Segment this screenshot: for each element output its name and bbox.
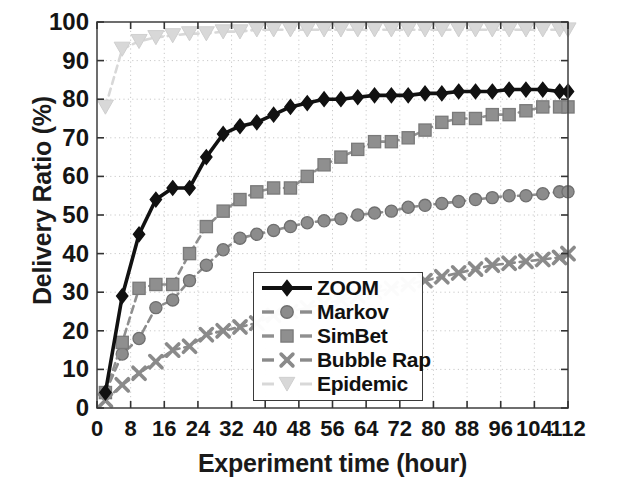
legend-label-bubble-rap: Bubble Rap bbox=[317, 348, 431, 372]
data-point-square bbox=[335, 151, 347, 163]
legend-swatch-epidemic bbox=[260, 373, 314, 395]
data-point-circle bbox=[183, 275, 195, 287]
data-point-square bbox=[436, 116, 448, 128]
data-point-square bbox=[167, 278, 179, 290]
data-point-circle bbox=[200, 259, 212, 271]
data-point-diamond bbox=[386, 88, 397, 102]
x-tick-label: 16 bbox=[152, 416, 176, 442]
data-point-circle bbox=[419, 199, 431, 211]
data-point-diamond bbox=[352, 90, 363, 104]
y-tick-label: 50 bbox=[19, 201, 89, 229]
data-point-diamond bbox=[487, 84, 498, 98]
x-tick-label: 24 bbox=[186, 416, 210, 442]
x-tick-label: 104 bbox=[516, 416, 553, 442]
y-tick-label: 0 bbox=[19, 394, 89, 422]
data-point-circle bbox=[268, 224, 280, 236]
data-point-square bbox=[234, 193, 246, 205]
data-point-circle bbox=[352, 209, 364, 221]
data-point-triangle-down bbox=[279, 377, 295, 391]
data-point-circle bbox=[234, 232, 246, 244]
data-point-circle bbox=[402, 201, 414, 213]
y-tick-label: 90 bbox=[19, 47, 89, 75]
data-point-diamond bbox=[234, 119, 245, 133]
data-point-x bbox=[150, 356, 162, 368]
data-point-square bbox=[503, 109, 515, 121]
data-point-circle bbox=[150, 302, 162, 314]
legend-swatch-graphic bbox=[260, 301, 314, 323]
data-point-diamond bbox=[520, 82, 531, 96]
data-point-square bbox=[453, 112, 465, 124]
data-point-diamond bbox=[318, 92, 329, 106]
data-point-circle bbox=[284, 221, 296, 233]
x-tick-label: 96 bbox=[488, 416, 512, 442]
data-point-circle bbox=[486, 192, 498, 204]
data-point-x bbox=[281, 354, 293, 366]
data-point-square bbox=[318, 159, 330, 171]
data-point-diamond bbox=[403, 88, 414, 102]
y-tick-label: 60 bbox=[19, 162, 89, 190]
series-line bbox=[105, 30, 568, 107]
legend-label-simbet: SimBet bbox=[317, 324, 388, 348]
y-tick-label: 70 bbox=[19, 124, 89, 152]
data-point-square bbox=[385, 136, 397, 148]
data-point-diamond bbox=[436, 86, 447, 100]
data-point-triangle-down bbox=[131, 34, 147, 48]
legend-item-markov: Markov bbox=[254, 300, 422, 324]
data-point-circle bbox=[469, 193, 481, 205]
data-point-diamond bbox=[281, 281, 293, 296]
legend-item-simbet: SimBet bbox=[254, 324, 422, 348]
data-point-circle bbox=[385, 205, 397, 217]
data-point-circle bbox=[436, 197, 448, 209]
legend-swatch-zoom bbox=[260, 277, 314, 299]
data-point-square bbox=[520, 105, 532, 117]
data-point-diamond bbox=[117, 289, 128, 303]
data-point-square bbox=[352, 143, 364, 155]
data-point-square bbox=[537, 101, 549, 113]
legend-label-epidemic: Epidemic bbox=[317, 372, 408, 396]
data-point-diamond bbox=[335, 92, 346, 106]
data-point-square bbox=[116, 336, 128, 348]
data-point-diamond bbox=[285, 100, 296, 114]
data-point-square bbox=[251, 186, 263, 198]
delivery-ratio-chart: Delivery Ratio (%) Experiment time (hour… bbox=[0, 0, 617, 490]
legend-label-markov: Markov bbox=[317, 300, 389, 324]
data-point-circle bbox=[217, 244, 229, 256]
data-point-circle bbox=[133, 332, 145, 344]
x-tick-label: 112 bbox=[550, 416, 586, 442]
x-tick-label: 32 bbox=[219, 416, 243, 442]
legend-swatch-graphic bbox=[260, 373, 314, 395]
x-tick-label: 40 bbox=[253, 416, 277, 442]
y-tick-label: 20 bbox=[19, 317, 89, 345]
x-tick-label: 8 bbox=[125, 416, 137, 442]
legend-swatch-bubble-rap bbox=[260, 349, 314, 371]
y-tick-label: 10 bbox=[19, 355, 89, 383]
x-tick-label: 0 bbox=[91, 416, 103, 442]
data-point-circle bbox=[520, 190, 532, 202]
data-point-x bbox=[116, 379, 128, 391]
legend-item-epidemic: Epidemic bbox=[254, 372, 422, 396]
x-tick-label: 72 bbox=[388, 416, 412, 442]
data-point-circle bbox=[537, 188, 549, 200]
data-point-circle bbox=[251, 228, 263, 240]
x-tick-label: 88 bbox=[455, 416, 479, 442]
data-point-triangle-down bbox=[198, 27, 214, 41]
data-point-square bbox=[200, 221, 212, 233]
data-point-diamond bbox=[251, 115, 262, 129]
legend-swatch-markov bbox=[260, 301, 314, 323]
legend-swatch-graphic bbox=[260, 325, 314, 347]
data-point-triangle-down bbox=[97, 100, 113, 114]
data-point-square bbox=[301, 170, 313, 182]
y-tick-label: 80 bbox=[19, 85, 89, 113]
data-point-diamond bbox=[302, 96, 313, 110]
data-point-square bbox=[486, 109, 498, 121]
x-tick-label: 48 bbox=[287, 416, 311, 442]
legend-item-bubble-rap: Bubble Rap bbox=[254, 348, 422, 372]
x-tick-label: 64 bbox=[354, 416, 378, 442]
data-point-diamond bbox=[167, 181, 178, 195]
data-point-square bbox=[469, 112, 481, 124]
chart-legend: ZOOM Markov SimBet Bubble Rap Epidemic bbox=[253, 272, 423, 401]
data-point-square bbox=[419, 124, 431, 136]
data-point-triangle-down bbox=[367, 23, 383, 37]
y-tick-label: 30 bbox=[19, 278, 89, 306]
data-point-square bbox=[402, 132, 414, 144]
